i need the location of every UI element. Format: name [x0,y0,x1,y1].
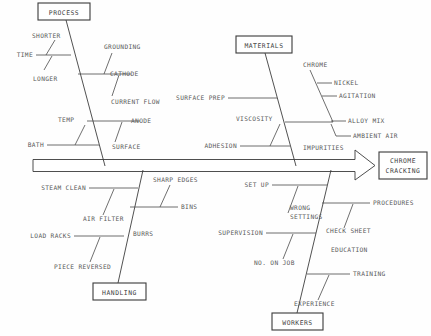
bone-air-filter [103,189,114,215]
cause-label-time: TIME [17,51,33,58]
category-materials: MATERIALS SURFACE PREP ADHESION VISCOSIT… [176,36,398,166]
cause-label-settings: SETTINGS [290,213,323,220]
cause-label-cathode: CATHODE [110,70,139,77]
cause-label-check-sheet: CHECK SHEET [326,227,371,234]
cause-label-surface-prep: SURFACE PREP [176,94,225,101]
cause-label-adhesion: ADHESION [204,142,237,149]
bone-shorter [46,40,55,55]
cause-label-longer: LONGER [33,75,57,82]
effect-label-line2: CRACKING [386,167,421,175]
category-label-handling: HANDLING [102,289,137,297]
cause-label-piece-reversed: PIECE REVERSED [54,263,111,270]
cause-label-burrs: BURRS [133,230,153,237]
cause-label-bath: BATH [28,141,44,148]
category-label-process: PROCESS [49,9,79,17]
category-workers: WORKERS SET UP WRONG SETTINGS PROCEDURES… [218,170,414,330]
cause-label-anode: ANODE [131,117,151,124]
main-spine [33,150,375,180]
fishbone-canvas: CHROME CRACKING PROCESS TIME SHORTER LON… [0,0,431,336]
cause-label-impurities: IMPURITIES [303,144,344,151]
cause-label-nickel: NICKEL [334,79,358,86]
cause-label-shorter: SHORTER [32,32,61,39]
fishbone-diagram: CHROME CRACKING PROCESS TIME SHORTER LON… [0,0,431,336]
cause-label-bins: BINS [181,203,197,210]
bone-surface [115,122,122,142]
category-label-materials: MATERIALS [244,42,283,50]
category-process: PROCESS TIME SHORTER LONGER CATHODE GROU… [17,3,160,166]
bone-temp [75,125,85,145]
category-label-workers: WORKERS [282,319,312,327]
cause-label-grounding: GROUNDING [104,43,141,50]
bone-no-on-job [283,234,293,259]
effect-label-line1: CHROME [390,157,416,165]
cause-label-ambient-air: AMBIENT AIR [353,132,398,139]
handling-main-bone [118,170,143,283]
bone-check-sheet [344,204,353,228]
bone-piece-reversed [90,237,100,262]
process-main-bone [66,20,105,166]
effect-box: CHROME CRACKING [379,152,427,179]
workers-main-bone [297,170,331,313]
cause-label-training: TRAINING [353,270,386,277]
cause-label-agitation: AGITATION [339,92,376,99]
cause-label-chrome: CHROME [303,61,327,68]
cause-label-supervision: SUPERVISION [218,229,263,236]
cause-label-set-up: SET UP [245,181,269,188]
cause-label-procedures: PROCEDURES [373,199,414,206]
cause-label-current-flow: CURRENT FLOW [111,98,160,105]
bone-viscosity [270,124,280,146]
cause-label-steam-clean: STEAM CLEAN [41,184,86,191]
cause-label-load-racks: LOAD RACKS [30,232,71,239]
cause-label-surface: SURFACE [112,143,141,150]
bone-sharp-edges [160,185,170,207]
bone-longer [44,56,52,70]
cause-label-sharp-edges: SHARP EDGES [153,176,198,183]
cause-label-education: EDUCATION [331,246,368,253]
cause-label-temp: TEMP [58,116,74,123]
bone-current-flow [112,75,119,96]
bone-ambient-air-stem [331,124,336,136]
materials-main-bone [265,53,296,166]
bone-experience [318,275,329,300]
category-handling: HANDLING STEAM CLEAN AIR FILTER BINS SHA… [30,170,198,300]
cause-label-experience: EXPERIENCE [294,300,335,307]
cause-label-air-filter: AIR FILTER [83,215,124,222]
cause-label-viscosity: VISCOSITY [236,115,273,122]
cause-label-alloy-mix: ALLOY MIX [348,117,385,124]
cause-label-no-on-job: NO. ON JOB [254,259,295,266]
cause-label-wrong: WRONG [290,204,310,211]
